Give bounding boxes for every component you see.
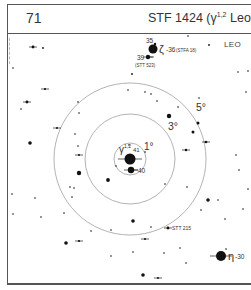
star — [150, 93, 152, 95]
star — [144, 151, 146, 153]
star — [75, 154, 83, 156]
star — [237, 71, 239, 73]
star — [206, 198, 210, 202]
star — [77, 145, 79, 147]
star — [164, 183, 166, 185]
stt523-label: (STT 523) — [135, 63, 156, 68]
star — [115, 165, 117, 167]
zeta-flamsteed-label: -36 — [166, 46, 176, 53]
stt215-label: STT 215 — [172, 225, 191, 231]
star — [131, 219, 135, 223]
star — [78, 112, 80, 114]
star — [197, 122, 200, 125]
star — [154, 277, 162, 279]
ring-label: 3° — [168, 120, 178, 132]
star — [73, 187, 75, 189]
gamma-flamsteed-label: 41 — [133, 147, 140, 153]
star — [90, 230, 92, 232]
star — [177, 106, 179, 108]
star-field: 1°3°5° γ1,2414035ζ-36(STFA 18)39(STT 523… — [0, 0, 251, 290]
star-39-label: 39 — [137, 54, 145, 61]
star — [167, 114, 171, 118]
star — [41, 88, 49, 90]
gamma-superscript-label: 1,2 — [124, 143, 131, 149]
star — [200, 209, 202, 211]
star — [53, 127, 61, 129]
star — [185, 262, 187, 264]
star-chart-page: 71 STF 1424 (γ1,2 Leo) LEO 1°3°5° γ1,241… — [0, 0, 251, 290]
star — [110, 255, 112, 257]
eta-symbol-label: η — [228, 250, 234, 262]
star — [179, 247, 181, 249]
star — [225, 248, 227, 250]
star — [12, 67, 14, 69]
star — [235, 154, 237, 156]
star-labels: γ1,2414035ζ-36(STFA 18)39(STT 523)STT 21… — [119, 37, 245, 262]
star — [192, 131, 195, 134]
star — [34, 197, 36, 199]
star — [106, 178, 110, 182]
stfa18-label: (STFA 18) — [176, 48, 197, 53]
star — [150, 226, 152, 228]
star-35-label: 35 — [146, 37, 154, 44]
ring-label: 1° — [144, 141, 154, 152]
star — [131, 73, 133, 75]
star — [23, 101, 31, 104]
star — [64, 241, 68, 245]
star-gamma-leo — [118, 154, 142, 165]
star — [42, 47, 44, 49]
star — [156, 100, 158, 102]
star — [127, 89, 129, 91]
star — [217, 199, 219, 201]
star — [208, 44, 210, 46]
star — [186, 186, 188, 188]
star — [198, 97, 200, 99]
star — [224, 218, 226, 220]
star — [247, 70, 249, 72]
star — [71, 196, 73, 198]
star — [74, 133, 76, 135]
star-zeta-leo — [149, 45, 158, 54]
star — [141, 273, 145, 277]
star — [69, 186, 71, 188]
stars — [11, 35, 249, 279]
star — [182, 149, 190, 151]
star — [11, 193, 13, 195]
star — [187, 35, 189, 37]
star — [63, 212, 65, 214]
star — [141, 238, 149, 240]
star — [238, 169, 240, 171]
eta-flamsteed-label: -30 — [235, 253, 245, 260]
star — [12, 213, 14, 215]
star — [242, 208, 244, 210]
star — [20, 108, 22, 110]
zeta-symbol-label: ζ — [159, 43, 164, 55]
star — [144, 91, 146, 93]
star-stt-215 — [164, 227, 172, 230]
star — [132, 251, 134, 253]
star — [202, 141, 210, 144]
star — [110, 229, 112, 231]
star — [28, 141, 32, 145]
star — [77, 101, 79, 103]
ring-label: 5° — [196, 101, 206, 113]
star — [163, 252, 165, 254]
star — [247, 188, 249, 190]
star — [245, 91, 247, 93]
star — [40, 216, 42, 218]
star — [29, 46, 37, 49]
star — [75, 240, 83, 242]
star — [77, 171, 81, 175]
star-40-label: 40 — [138, 167, 146, 174]
star-35-leo — [154, 43, 156, 45]
